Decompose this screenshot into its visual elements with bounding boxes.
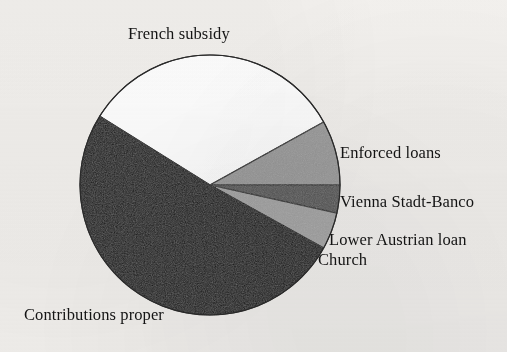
pie-label-vienna-stadt-banco: Vienna Stadt-Banco — [340, 192, 474, 211]
pie-chart-figure: French subsidy Enforced loans Vienna Sta… — [0, 0, 507, 352]
pie-label-church: Church — [318, 250, 367, 269]
pie-label-contributions-proper: Contributions proper — [24, 305, 164, 324]
pie-label-enforced-loans: Enforced loans — [340, 143, 441, 162]
pie-label-lower-austrian-loan: Lower Austrian loan — [329, 230, 467, 249]
pie-chart-svg — [0, 0, 507, 352]
pie-slices-group — [80, 55, 340, 315]
pie-label-french-subsidy: French subsidy — [128, 24, 230, 43]
